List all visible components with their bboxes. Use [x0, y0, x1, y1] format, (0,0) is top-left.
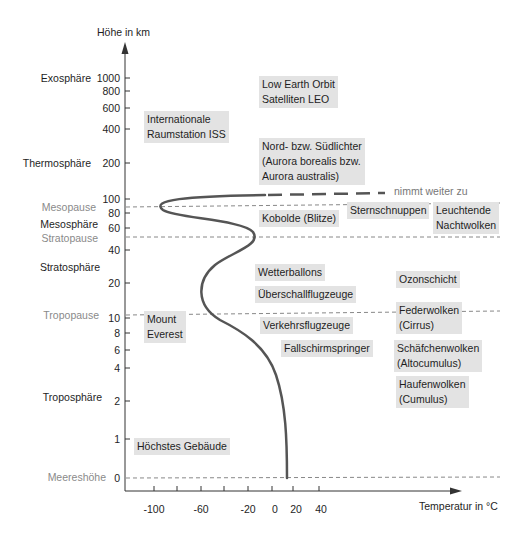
annotation-iss: Internationale Raumstation ISS — [144, 111, 229, 143]
label-stratopause: Stratopause — [0, 231, 98, 245]
label-thermosphere: Thermosphäre — [0, 156, 91, 170]
y-tick-1: 1 — [80, 433, 120, 445]
label-troposphere: Troposphäre — [0, 390, 102, 404]
annotation-skydivers: Fallschirmspringer — [281, 340, 373, 357]
label-sea-level: Meereshöhe — [0, 470, 106, 484]
label-tropopause: Tropopause — [0, 308, 99, 322]
annotation-cumulus: Haufenwolken (Cumulus) — [396, 376, 469, 408]
x-axis-title: Temperatur in °C — [419, 500, 498, 512]
y-tick-8: 8 — [80, 327, 120, 339]
temperature-continuation — [268, 193, 385, 195]
annotation-weather-balloons: Wetterballons — [255, 264, 325, 281]
y-axis-arrow-icon — [122, 42, 129, 54]
y-axis-title: Höhe in km — [97, 26, 150, 38]
y-tick-40: 40 — [80, 244, 120, 256]
annotation-leo-line2: Satelliten LEO — [262, 92, 335, 107]
annotation-iss-line2: Raumstation ISS — [147, 127, 226, 142]
annotation-continuation: nimmt weiter zu — [394, 185, 468, 197]
annotation-cirrus-line1: Federwolken — [399, 303, 459, 318]
x-tick--60: -60 — [181, 503, 221, 515]
annotation-everest-line1: Mount — [147, 312, 183, 327]
x-axis-arrow-icon — [450, 488, 462, 495]
label-mesosphere: Mesosphäre — [0, 217, 98, 231]
annotation-iss-line1: Internationale — [147, 112, 226, 127]
annotation-altocumulus-line1: Schäfchenwolken — [397, 341, 479, 356]
annotation-everest: Mount Everest — [144, 311, 186, 343]
y-tick-600: 600 — [80, 102, 120, 114]
y-tick-6: 6 — [80, 344, 120, 356]
annotation-altocumulus: Schäfchenwolken (Altocumulus) — [394, 340, 482, 372]
annotation-airliners: Verkehrsflugzeuge — [260, 317, 353, 334]
annotation-leo-line1: Low Earth Orbit — [262, 77, 335, 92]
annotation-aurora-line1: Nord- bzw. Südlichter — [262, 139, 362, 154]
x-tick--100: -100 — [134, 503, 174, 515]
annotation-meteors: Sternschnuppen — [347, 202, 429, 219]
label-mesopause: Mesopause — [0, 200, 96, 214]
annotation-noctilucent-line1: Leuchtende — [436, 203, 496, 218]
annotation-altocumulus-line2: (Altocumulus) — [397, 356, 479, 371]
x-tick-marks — [154, 486, 319, 491]
annotation-supersonic: Überschallflugzeuge — [255, 286, 356, 303]
annotation-cirrus-line2: (Cirrus) — [399, 318, 459, 333]
y-tick-800: 800 — [80, 85, 120, 97]
label-exosphere: Exosphäre — [0, 71, 91, 85]
y-tick-4: 4 — [80, 362, 120, 374]
y-tick-marks — [125, 78, 130, 439]
label-stratosphere: Stratosphäre — [0, 260, 100, 274]
y-tick-20: 20 — [80, 277, 120, 289]
annotation-leo: Low Earth Orbit Satelliten LEO — [259, 76, 338, 108]
annotation-noctilucent-line2: Nachtwolken — [436, 218, 496, 233]
annotation-noctilucent: Leuchtende Nachtwolken — [433, 202, 499, 234]
y-tick-400: 400 — [80, 123, 120, 135]
annotation-aurora-line3: Aurora australis) — [262, 169, 362, 184]
annotation-cumulus-line1: Haufenwolken — [399, 377, 466, 392]
annotation-aurora-line2: (Aurora borealis bzw. — [262, 154, 362, 169]
sea-level-line — [126, 477, 500, 478]
annotation-ozone: Ozonschicht — [396, 271, 460, 288]
x-tick-40: 40 — [301, 503, 341, 515]
annotation-tallest-building: Höchstes Gebäude — [134, 438, 230, 455]
annotation-aurora: Nord- bzw. Südlichter (Aurora borealis b… — [259, 138, 365, 185]
annotation-everest-line2: Everest — [147, 327, 183, 342]
annotation-cumulus-line2: (Cumulus) — [399, 392, 466, 407]
annotation-sprites: Kobolde (Blitze) — [259, 210, 339, 227]
annotation-cirrus: Federwolken (Cirrus) — [396, 302, 462, 334]
